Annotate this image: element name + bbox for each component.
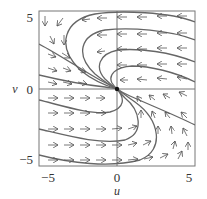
x-axis-label: u <box>114 184 120 198</box>
phase-portrait: 5 0 −5 −5 0 5 u v <box>0 0 207 199</box>
y-tick-0: 0 <box>27 82 34 97</box>
y-tick-5: 5 <box>27 10 34 25</box>
y-axis-label: v <box>12 82 18 96</box>
x-tick-0: 0 <box>114 170 121 185</box>
x-tick-5: 5 <box>186 170 193 185</box>
y-tick-neg5: −5 <box>19 152 33 167</box>
x-tick-neg5: −5 <box>41 170 55 185</box>
equilibrium-point <box>115 87 119 91</box>
